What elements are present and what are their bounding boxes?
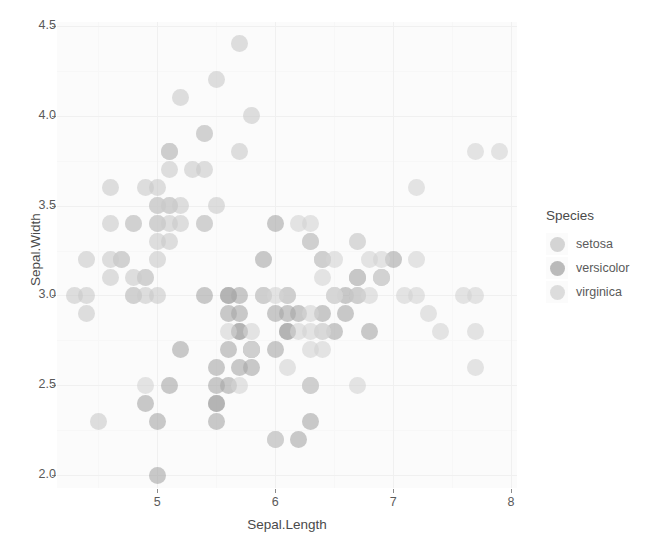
legend-label: virginica [576,285,622,299]
data-point [361,251,378,268]
data-point [125,215,142,232]
data-point [172,197,189,214]
data-point [361,323,378,340]
legend-item-virginica[interactable]: virginica [546,280,630,304]
data-point [267,341,284,358]
data-point [78,305,95,322]
data-point [149,197,166,214]
data-point [432,323,449,340]
data-points-layer [57,22,517,488]
data-point [137,377,154,394]
data-point [172,89,189,106]
data-point [196,215,213,232]
data-point [408,287,425,304]
data-point [243,341,260,358]
x-tick-label: 7 [390,495,397,509]
data-point [243,323,260,340]
data-point [161,377,178,394]
data-point [349,269,366,286]
data-point [208,413,225,430]
legend-item-setosa[interactable]: setosa [546,232,630,256]
data-point [102,251,119,268]
data-point [267,215,284,232]
scatter-plot-figure: 4.54.03.53.02.52.0 5678 Sepal.Length Sep… [0,0,660,554]
data-point [491,143,508,160]
plot-panel [57,22,517,488]
y-tick-label: 2.0 [39,467,56,481]
data-point [279,359,296,376]
data-point [172,341,189,358]
data-point [467,287,484,304]
data-point [208,71,225,88]
data-point [302,305,319,322]
data-point [267,431,284,448]
x-tick-mark [275,489,276,493]
y-tick-label: 4.5 [39,18,56,32]
legend-label: versicolor [576,261,630,275]
data-point [373,269,390,286]
y-axis-title: Sepal.Width [28,120,43,380]
data-point [314,269,331,286]
data-point [302,413,319,430]
data-point [302,341,319,358]
data-point [149,251,166,268]
data-point [149,287,166,304]
data-point [255,287,272,304]
data-point [161,215,178,232]
data-point [337,305,354,322]
data-point [290,431,307,448]
data-point [408,251,425,268]
x-axis-title: Sepal.Length [57,517,517,532]
data-point [231,305,248,322]
data-point [196,287,213,304]
data-point [90,413,107,430]
data-point [420,305,437,322]
x-tick-mark [157,489,158,493]
data-point [149,233,166,250]
data-point [161,143,178,160]
data-point [208,197,225,214]
x-tick-label: 5 [154,495,161,509]
x-tick-label: 8 [508,495,515,509]
x-tick-mark [511,489,512,493]
data-point [255,251,272,268]
data-point [220,341,237,358]
data-point [408,179,425,196]
data-point [208,395,225,412]
data-point [243,359,260,376]
legend-key [546,233,568,255]
legend-item-versicolor[interactable]: versicolor [546,256,630,280]
data-point [149,413,166,430]
data-point [467,359,484,376]
data-point [467,143,484,160]
data-point [302,323,319,340]
data-point [78,251,95,268]
data-point [220,323,237,340]
data-point [349,233,366,250]
data-point [149,467,166,484]
data-point [208,377,225,394]
legend-label: setosa [576,237,613,251]
data-point [102,179,119,196]
data-point [78,287,95,304]
data-point [326,287,343,304]
legend-items: setosaversicolorvirginica [546,232,630,304]
data-point [314,251,331,268]
data-point [231,35,248,52]
legend-title: Species [546,208,630,223]
x-tick-mark [393,489,394,493]
data-point [349,377,366,394]
legend-key [546,257,568,279]
data-point [231,377,248,394]
data-point [137,269,154,286]
data-point [137,179,154,196]
x-tick-label: 6 [272,495,279,509]
data-point [208,359,225,376]
legend: Species setosaversicolorvirginica [546,208,630,304]
data-point [243,107,260,124]
data-point [102,215,119,232]
data-point [231,143,248,160]
data-point [102,269,119,286]
data-point [196,125,213,142]
legend-swatch-icon [550,237,565,252]
